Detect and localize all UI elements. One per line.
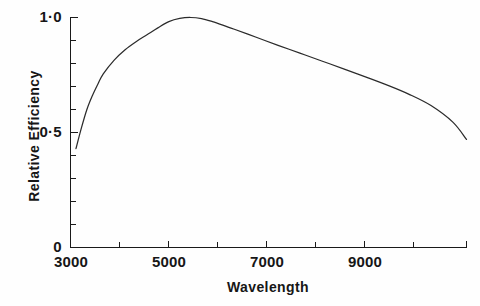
y-tick-label-1: 1·0 [14,8,62,25]
x-tick-label-9000: 9000 [332,253,398,270]
figure-container: 1·0 0·5 0 3000 5000 7000 9000 Relative E… [0,0,480,306]
efficiency-curve [76,17,467,148]
x-axis-title: Wavelength [70,279,466,295]
x-tick-label-7000: 7000 [234,253,300,270]
x-tick-label-3000: 3000 [38,253,104,270]
axes [70,17,467,248]
x-tick-label-5000: 5000 [136,253,202,270]
y-axis-title: Relative Efficiency [26,36,42,236]
x-ticks [71,241,467,248]
y-major-ticks [71,18,79,248]
